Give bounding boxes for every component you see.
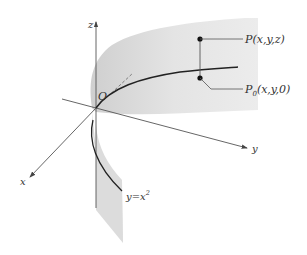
z-axis-label: z: [87, 19, 94, 30]
parabolic-cylinder-diagram: z O x y P(x,y,z) P0(x,y,0) y=x2: [0, 0, 307, 255]
point-p-label: P(x,y,z): [244, 33, 285, 46]
surface-lower-face: [96, 125, 123, 243]
x-axis-label: x: [20, 176, 26, 187]
y-axis: [96, 108, 247, 148]
curve-equation-label: y=x2: [125, 189, 150, 202]
surface-upper: [91, 18, 258, 114]
y-axis-label: y: [251, 143, 258, 154]
x-axis: [30, 108, 96, 177]
back-axis-line: [62, 99, 96, 108]
origin-label: O: [98, 90, 107, 103]
point-p0-label: P0(x,y,0): [244, 83, 290, 98]
